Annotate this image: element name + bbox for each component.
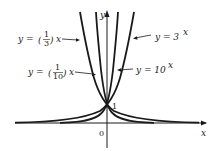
leader-three [135, 35, 151, 38]
svg-text:3: 3 [44, 39, 49, 48]
x-axis-label: x [201, 128, 206, 138]
svg-text:1: 1 [55, 63, 60, 72]
leader-arrow-icon [117, 68, 121, 71]
leader-one-third [62, 39, 78, 40]
paren-close: ) [49, 35, 54, 45]
exponential-graph: y x 0 1 y = ( 1 3 ) x y = ( 1 10 ) x y =… [0, 0, 217, 151]
leader-arrow-icon [76, 38, 80, 41]
svg-text:y = 3: y = 3 [154, 32, 179, 42]
y-axis-arrow-icon [105, 10, 110, 17]
svg-text:y =: y = [27, 67, 44, 77]
leader-arrow-icon [133, 36, 138, 39]
x-axis-arrow-icon [201, 121, 207, 126]
paren-close: ) [62, 68, 67, 78]
label-ten: y = 10 x [135, 60, 173, 75]
intercept-label: 1 [112, 102, 117, 111]
label-three: y = 3 x [154, 27, 188, 42]
svg-text:x: x [56, 34, 61, 44]
leader-ten [119, 69, 133, 70]
paren-open: ( [48, 68, 52, 78]
y-axis-label: y [99, 10, 106, 20]
svg-text:x: x [168, 60, 173, 70]
svg-text:y = 10: y = 10 [135, 65, 166, 75]
svg-text:x: x [183, 27, 188, 37]
intercept-point [105, 104, 108, 107]
paren-open: ( [38, 35, 42, 45]
label-one-tenth: y = ( 1 10 ) x [27, 63, 74, 81]
leader-one-tenth [75, 72, 93, 74]
svg-text:10: 10 [53, 72, 63, 81]
origin-label: 0 [99, 129, 104, 138]
label-one-third: y = ( 1 3 ) x [17, 30, 61, 48]
svg-text:y =: y = [17, 34, 34, 44]
svg-text:x: x [69, 67, 74, 77]
svg-text:1: 1 [44, 30, 49, 39]
